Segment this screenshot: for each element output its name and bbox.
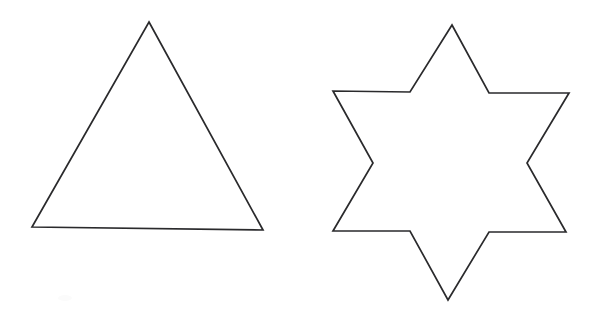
shapes-drawing [0,0,599,313]
scan-smudge [58,295,72,301]
shape-canvas [0,0,599,313]
